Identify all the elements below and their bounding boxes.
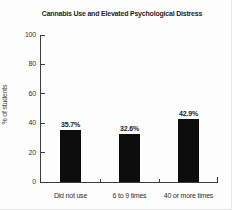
chart-title: Cannabis Use and Elevated Psychological …	[16, 10, 228, 17]
y-axis-tick-label: 80	[13, 60, 36, 67]
y-axis-tick-label: 20	[13, 149, 36, 156]
y-axis-tick	[41, 64, 45, 65]
y-axis-tick	[41, 35, 45, 36]
y-axis-tick-label: 40	[13, 119, 36, 126]
bar-1	[60, 130, 81, 182]
y-axis-label: % of students	[1, 74, 8, 136]
y-axis-tick	[41, 93, 45, 94]
y-axis-tick	[41, 152, 45, 153]
x-axis-tick	[159, 179, 160, 182]
bar-3	[178, 119, 199, 182]
x-axis-tick	[100, 179, 101, 182]
y-axis-tick	[41, 182, 45, 183]
plot-area: 02040608010035.7%Did not use32.6%6 to 9 …	[40, 35, 218, 183]
bar-value-label: 35.7%	[41, 121, 100, 128]
x-axis-category-label: 40 or more times	[151, 192, 226, 199]
bar-value-label: 42.9%	[159, 110, 218, 117]
bar-2	[119, 134, 140, 182]
y-axis-tick-label: 100	[13, 31, 36, 38]
y-axis-tick-label: 0	[13, 178, 36, 185]
x-axis-end-tick	[217, 177, 218, 182]
y-axis-tick-label: 60	[13, 90, 36, 97]
bar-chart-figure: Cannabis Use and Elevated Psychological …	[0, 0, 232, 210]
bar-value-label: 32.6%	[100, 125, 159, 132]
